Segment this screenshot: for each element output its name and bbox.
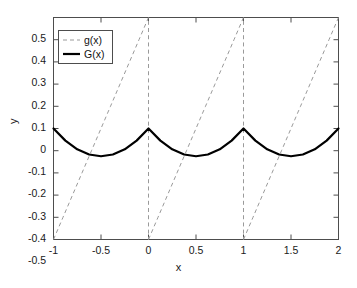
figure-canvas: 0.5 0.4 0.3 0.2 0.1 0 -0.1 -0.2 -0.3 -0.… [0,0,357,288]
y-tick-label-0.5: 0.5 [4,33,46,44]
y-tick-label-neg0.2: -0.2 [4,188,46,199]
x-tick-label-0.5: 0.5 [170,245,222,256]
y-tick-label-0: 0 [4,144,46,155]
x-tick-label-2: 2 [313,245,357,256]
x-tick-label-neg0.5: -0.5 [75,245,127,256]
y-tick-label-0.4: 0.4 [4,55,46,66]
x-tick-label-neg1: -1 [28,245,79,256]
y-tick-label-0.3: 0.3 [4,77,46,88]
x-tick-label-1.5: 1.5 [265,245,317,256]
y-tick-label-neg0.3: -0.3 [4,211,46,222]
y-axis-title: y [8,119,19,125]
legend-label-Gx: G(x) [84,49,104,60]
x-tick-label-0: 0 [123,245,174,256]
x-tick-label-1: 1 [218,245,269,256]
legend-label-gx: g(x) [84,35,102,46]
y-tick-label-neg0.1: -0.1 [4,166,46,177]
x-axis-title: x [0,262,357,273]
y-tick-label-neg0.4: -0.4 [4,233,46,244]
y-tick-label-0.2: 0.2 [4,100,46,111]
